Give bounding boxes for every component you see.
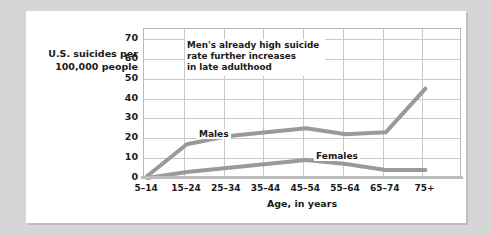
y-tick-50: 50 [112, 73, 138, 83]
y-tick-40: 40 [112, 93, 138, 103]
y-tick-20: 20 [112, 132, 138, 142]
series-label-males: Males [197, 129, 231, 139]
plot-area: Males Females Men's already high suicide… [143, 28, 461, 177]
annotation-callout: Men's already high suicide rate further … [185, 39, 325, 76]
y-tick-70: 70 [112, 33, 138, 43]
annotation-line2: rate further increases [187, 51, 319, 62]
y-tick-0: 0 [112, 172, 138, 182]
x-axis-title: Age, in years [143, 198, 461, 209]
series-label-females: Females [314, 151, 360, 161]
y-tick-60: 60 [112, 53, 138, 63]
figure-root: U.S. suicides per 100,000 people 70 60 5… [0, 0, 492, 235]
y-tick-10: 10 [112, 152, 138, 162]
x-axis-baseline [141, 176, 463, 179]
y-tick-30: 30 [112, 112, 138, 122]
annotation-line3: in late adulthood [187, 62, 319, 73]
x-tick-7: 75+ [401, 183, 447, 193]
annotation-line1: Men's already high suicide [187, 40, 319, 51]
